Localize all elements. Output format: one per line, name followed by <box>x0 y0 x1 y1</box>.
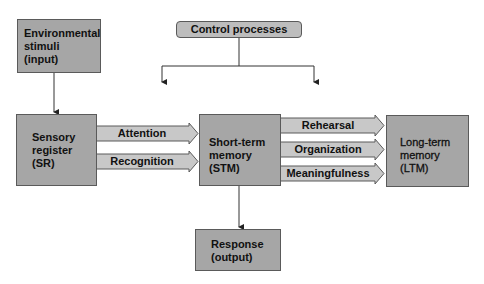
long-term-memory-box: Long-term memory (LTM) <box>386 115 469 187</box>
control-connector <box>162 38 314 82</box>
long-term-memory-label: Long-term memory (LTM) <box>400 136 450 175</box>
sensory-register-box: Sensory register (SR) <box>16 114 97 186</box>
recognition-label: Recognition <box>96 155 188 168</box>
sensory-register-label: Sensory register (SR) <box>32 131 75 170</box>
short-term-memory-box: Short-term memory (STM) <box>199 114 281 186</box>
organization-label: Organization <box>280 143 376 156</box>
rehearsal-label: Rehearsal <box>280 119 376 132</box>
meaningfulness-label: Meaningfulness <box>280 167 376 180</box>
short-term-memory-label: Short-term memory (STM) <box>209 136 265 175</box>
environmental-stimuli-box: Environmental stimuli (input) <box>17 19 101 73</box>
response-label: Response (output) <box>211 238 264 264</box>
response-box: Response (output) <box>195 229 281 271</box>
attention-label: Attention <box>96 127 188 140</box>
control-processes-box: Control processes <box>176 21 302 38</box>
environmental-stimuli-label: Environmental stimuli (input) <box>24 27 100 66</box>
